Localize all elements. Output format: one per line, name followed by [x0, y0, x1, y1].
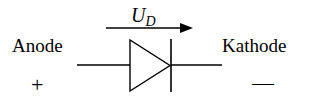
diode-triangle-icon: [130, 40, 170, 91]
voltage-label: UD: [131, 5, 156, 29]
voltage-symbol: U: [131, 4, 145, 26]
kathode-label: Kathode: [222, 36, 286, 55]
voltage-subscript: D: [145, 14, 155, 29]
plus-sign: +: [31, 74, 43, 96]
voltage-arrow-head-icon: [180, 23, 193, 33]
anode-label: Anode: [12, 36, 63, 55]
minus-sign: —: [252, 72, 274, 94]
